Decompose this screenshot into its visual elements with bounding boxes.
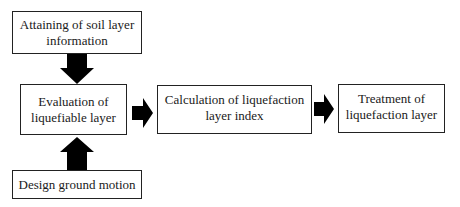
node-label-line: liquefiable layer: [31, 110, 116, 126]
node-label-line: information: [20, 33, 134, 49]
node-label-line: Evaluation of: [31, 94, 116, 110]
arrow-down-icon: [60, 54, 94, 84]
node-label-line: liquefaction layer: [346, 107, 437, 123]
node-label-line: layer index: [165, 108, 304, 124]
node-label-line: Treatment of: [346, 91, 437, 107]
node-label-line: Attaining of soil layer: [20, 17, 134, 33]
node-calculation-of-liquefaction-layer-index: Calculation of liquefaction layer index: [157, 85, 312, 134]
arrow-right-icon: [314, 94, 334, 124]
arrow-right-icon: [132, 98, 153, 128]
node-label-line: Design ground motion: [19, 177, 136, 193]
flowchart-canvas: Attaining of soil layer information Eval…: [0, 0, 460, 207]
arrow-up-icon: [60, 137, 94, 170]
node-evaluation-of-liquefiable-layer: Evaluation of liquefiable layer: [20, 84, 127, 135]
node-treatment-of-liquefaction-layer: Treatment of liquefaction layer: [338, 84, 445, 133]
node-label-line: Calculation of liquefaction: [165, 92, 304, 108]
node-attaining-soil-layer-information: Attaining of soil layer information: [12, 11, 142, 54]
node-design-ground-motion: Design ground motion: [12, 170, 142, 199]
